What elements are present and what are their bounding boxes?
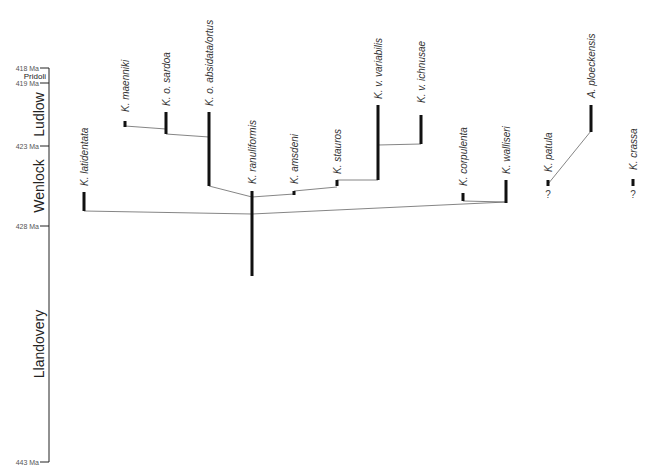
taxon-k-corpulenta: K. corpulenta (458, 127, 469, 201)
taxon-k-o-absidata-ortus: K. o. absidata/ortus (204, 20, 215, 186)
branch-connector (294, 187, 337, 191)
taxon-k-amsdeni: K. amsdeni (289, 133, 300, 195)
branch-connector (548, 131, 591, 184)
taxon-k-patula: K. patula? (543, 132, 554, 200)
stratigraphic-range-bar (547, 180, 550, 186)
tick-label: 428 Ma (16, 223, 39, 230)
stratigraphic-range-bar (336, 180, 339, 186)
taxon-k-latidentata: K. latidentata (79, 127, 90, 211)
branch-connector (463, 201, 506, 202)
taxon-label: K. o. sardoa (161, 52, 172, 106)
tick-label: 443 Ma (16, 459, 39, 466)
branch-connector (84, 211, 252, 214)
stratigraphic-range-bar (251, 191, 254, 276)
branch-connector (252, 194, 294, 197)
taxon-label: K. o. absidata/ortus (204, 20, 215, 106)
taxon-label: K. latidentata (79, 127, 90, 186)
taxon-k-ranuliformis: K. ranuliformis (247, 120, 258, 276)
tick-label: 423 Ma (16, 143, 39, 150)
stratigraphic-range-bar (505, 180, 508, 203)
taxon-k-maenniki: K. maenniki (120, 59, 131, 127)
stratigraphic-range-bar (165, 112, 168, 134)
stratigraphic-range-bar (462, 193, 465, 201)
taxon-k-walliseri: K. walliseri (501, 125, 512, 203)
phylogeny-diagram: 418 Ma419 Ma423 Ma428 Ma443 MaPridoliLud… (0, 0, 647, 474)
stratigraphic-range-bar (632, 179, 635, 186)
taxon-k-v-ichnusae: K. v. ichnusae (416, 40, 427, 144)
taxon-label: K. corpulenta (458, 127, 469, 186)
taxa-ranges: K. latidentataK. maennikiK. o. sardoaK. … (79, 20, 639, 276)
taxon-label: K. stauros (332, 129, 343, 174)
epoch-label-ludlow: Ludlow (31, 91, 47, 136)
branch-connector (166, 134, 209, 137)
branch-connector (378, 144, 421, 145)
stratigraphic-range-bar (124, 121, 127, 127)
taxon-label: A. ploeckensis (586, 34, 597, 99)
taxon-label: K. v. variabilis (373, 38, 384, 99)
taxon-label: K. v. ichnusae (416, 40, 427, 103)
taxon-label: K. ranuliformis (247, 120, 258, 184)
stratigraphic-range-bar (208, 112, 211, 186)
taxon-k-stauros: K. stauros (332, 129, 343, 186)
uncertain-range-marker: ? (545, 189, 551, 200)
stratigraphic-range-bar (293, 191, 296, 195)
taxon-k-o-sardoa: K. o. sardoa (161, 52, 172, 134)
branch-connector (209, 186, 252, 197)
taxon-k-v-variabilis: K. v. variabilis (373, 38, 384, 180)
timescale-axis: 418 Ma419 Ma423 Ma428 Ma443 MaPridoliLud… (16, 65, 49, 466)
tick-label: 419 Ma (16, 80, 39, 87)
branch-connector (252, 202, 506, 214)
stratigraphic-range-bar (590, 105, 593, 132)
stratigraphic-range-bar (377, 105, 380, 180)
taxon-label: K. crassa (628, 128, 639, 170)
epoch-label-wenlock: Wenlock (31, 158, 47, 212)
taxon-label: K. amsdeni (289, 133, 300, 184)
taxon-label: K. walliseri (501, 125, 512, 174)
taxon-k-crassa: K. crassa? (628, 128, 639, 200)
stratigraphic-range-bar (83, 192, 86, 211)
taxon-a-ploeckensis: A. ploeckensis (586, 34, 597, 132)
stratigraphic-range-bar (420, 115, 423, 144)
taxon-label: K. maenniki (120, 59, 131, 112)
epoch-label-pridoli: Pridoli (24, 72, 46, 81)
branch-connector (125, 126, 166, 129)
epoch-label-llandovery: Llandovery (31, 310, 47, 379)
taxon-label: K. patula (543, 132, 554, 172)
tick-label: 418 Ma (16, 65, 39, 72)
uncertain-range-marker: ? (630, 189, 636, 200)
